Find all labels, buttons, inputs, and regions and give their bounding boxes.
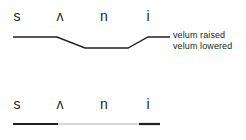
velum-trace-chart	[0, 26, 180, 58]
bottom-phonetic-symbol-row: s ʌ n i	[0, 95, 246, 113]
velum-trace-line	[13, 37, 170, 48]
velum-position-figure: s ʌ n i velum raised velum lowered s ʌ n…	[0, 0, 246, 140]
annotation-velum-lowered: velum lowered	[173, 41, 246, 52]
top-symbol-s: s	[9, 7, 25, 25]
annotation-velum-raised: velum raised	[173, 30, 246, 41]
bottom-symbol-i: i	[140, 95, 156, 113]
top-symbol-wedge: ʌ	[52, 7, 68, 25]
top-symbol-n: n	[96, 7, 112, 25]
bottom-symbol-n: n	[96, 95, 112, 113]
bottom-symbol-wedge: ʌ	[52, 95, 68, 113]
velopharyngeal-port-bar	[0, 118, 180, 130]
top-symbol-i: i	[140, 7, 156, 25]
trace-annotation-group: velum raised velum lowered	[173, 30, 246, 51]
bottom-symbol-s: s	[9, 95, 25, 113]
top-phonetic-symbol-row: s ʌ n i	[0, 7, 246, 25]
